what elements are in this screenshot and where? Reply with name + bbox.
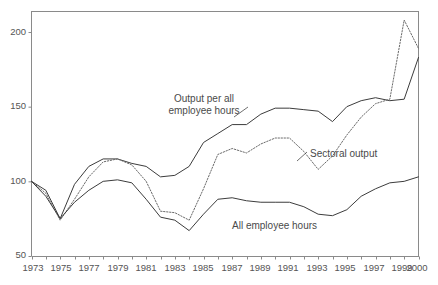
leader-line-sectoral	[297, 152, 307, 161]
chart-figure: 200 150 100 50 1973 1975 1977 1979 1981 …	[0, 0, 438, 285]
annotation-leader-lines	[234, 107, 307, 214]
y-tick-label-200: 200	[2, 26, 26, 37]
y-tick-label-100: 100	[2, 175, 26, 186]
chart-series-group	[32, 20, 419, 231]
chart-axes	[32, 11, 420, 257]
annotation-output-line1: Output per all	[151, 93, 257, 105]
x-tick-label-1977: 1977	[73, 262, 105, 273]
y-tick-label-150: 150	[2, 100, 26, 111]
y-tick-label-50: 50	[2, 249, 26, 260]
annotation-output-per-employee-hours: Output per all employee hours	[151, 93, 257, 117]
annotation-all-employee-hours: All employee hours	[232, 220, 317, 232]
chart-plot-area	[0, 0, 438, 285]
x-tick-label-1995: 1995	[329, 262, 361, 273]
x-tick-label-1991: 1991	[272, 262, 304, 273]
series-line-2	[32, 177, 419, 231]
x-tick-label-1981: 1981	[130, 262, 162, 273]
series-line-0	[32, 57, 419, 218]
annotation-output-line2: employee hours	[151, 105, 257, 117]
annotation-sectoral-output: Sectoral output	[310, 148, 377, 160]
x-tick-label-2000: 2000	[401, 262, 433, 273]
x-tick-label-1985: 1985	[187, 262, 219, 273]
